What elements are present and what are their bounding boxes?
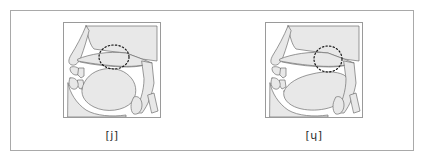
panel-j: [j] (42, 22, 182, 142)
panel-caption-labial-palatal: [ɥ] (305, 129, 322, 142)
panel-row: [j] (11, 11, 415, 152)
sagittal-head-illustration-j (64, 23, 160, 117)
lower-lip (69, 78, 78, 89)
sagittal-head-illustration-labial-palatal (266, 23, 362, 117)
trachea-strap (148, 93, 158, 113)
panel-caption-j: [j] (105, 129, 118, 142)
vocal-tract-diagram-j (63, 22, 161, 118)
panel-labial-palatal: [ɥ] (244, 22, 384, 142)
figure-frame: [j] (10, 10, 414, 151)
epiglottis (333, 96, 344, 114)
upper-teeth (78, 68, 84, 78)
vocal-tract-diagram-labial-palatal (265, 22, 363, 118)
trachea-strap (350, 93, 360, 113)
tongue-body (82, 68, 136, 110)
lower-lip (271, 78, 280, 89)
figure-root: [j] (0, 0, 426, 162)
epiglottis (131, 96, 142, 114)
upper-teeth (280, 68, 286, 78)
